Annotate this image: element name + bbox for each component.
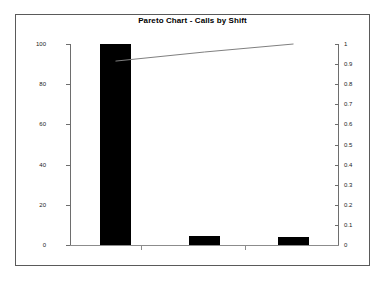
bar (100, 44, 131, 245)
bar (189, 236, 220, 245)
bar (278, 237, 309, 245)
pareto-chart: Pareto Chart - Calls by Shift 1008060402… (0, 0, 385, 281)
bars-layer (0, 0, 385, 281)
